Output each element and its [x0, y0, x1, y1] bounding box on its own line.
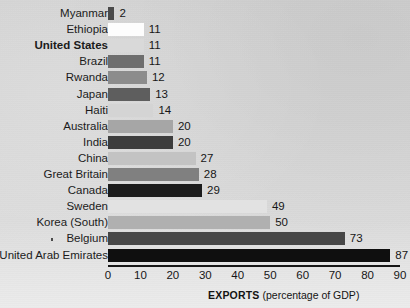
x-tick-label: 60	[296, 269, 309, 282]
chart-row: Ethiopia11	[0, 23, 410, 40]
x-axis-caption-rest: (percentage of GDP)	[260, 289, 360, 301]
bar-value-label: 14	[158, 104, 171, 117]
bar-value-label: 11	[149, 55, 161, 68]
x-tick-label: 80	[361, 269, 374, 282]
x-tick-label: 50	[264, 269, 277, 282]
x-axis-line	[108, 265, 400, 267]
bar-value-label: 11	[149, 23, 161, 36]
chart-row: Brazil11	[0, 55, 410, 72]
bar	[108, 104, 153, 117]
bar-value-label: 20	[178, 120, 191, 133]
x-axis-caption-strong: EXPORTS	[208, 289, 260, 301]
category-label: Australia	[0, 120, 108, 133]
bar-value-label: 2	[119, 7, 125, 20]
chart-row: Myanmar2	[0, 7, 410, 24]
x-axis-caption: EXPORTS (percentage of GDP)	[208, 289, 359, 302]
bar-value-label: 50	[275, 216, 288, 229]
category-label: Canada	[0, 184, 108, 197]
chart-row: Great Britain28	[0, 168, 410, 185]
bar	[108, 184, 202, 197]
category-label: Brazil	[0, 55, 108, 68]
bar	[108, 216, 270, 229]
bar-value-label: 13	[155, 88, 168, 101]
bar	[108, 249, 390, 262]
x-tick-label: 40	[231, 269, 244, 282]
bar-value-label: 12	[152, 71, 165, 84]
chart-row: Australia20	[0, 120, 410, 137]
category-label: Rwanda	[0, 71, 108, 84]
exports-bar-chart: Myanmar2Ethiopia11United States11Brazil1…	[0, 0, 410, 308]
bar	[108, 88, 150, 101]
category-label: Korea (South)	[0, 216, 108, 229]
bar-value-label: 49	[272, 200, 285, 213]
stray-tick-mark-icon	[51, 238, 53, 241]
bar	[108, 39, 144, 52]
category-label: Myanmar	[0, 7, 108, 20]
x-tick-label: 70	[329, 269, 342, 282]
category-label: India	[0, 136, 108, 149]
chart-row: India20	[0, 136, 410, 153]
chart-row: China27	[0, 152, 410, 169]
bar	[108, 168, 199, 181]
category-label: Japan	[0, 88, 108, 101]
x-tick-label: 90	[394, 269, 407, 282]
bar-value-label: 20	[178, 136, 191, 149]
bar-value-label: 27	[201, 152, 214, 165]
x-tick-label: 30	[199, 269, 212, 282]
category-label: Sweden	[0, 200, 108, 213]
chart-row: Belgium73	[0, 232, 410, 249]
category-label: United Arab Emirates	[0, 249, 108, 262]
bar	[108, 152, 196, 165]
bar	[108, 7, 114, 20]
bar-value-label: 11	[149, 39, 161, 52]
bar	[108, 136, 173, 149]
bar	[108, 55, 144, 68]
bar-value-label: 87	[395, 249, 408, 262]
category-label: China	[0, 152, 108, 165]
chart-row: Sweden49	[0, 200, 410, 217]
x-tick-label: 10	[134, 269, 147, 282]
category-label: Great Britain	[0, 168, 108, 181]
bar	[108, 71, 147, 84]
category-label: United States	[0, 39, 108, 52]
x-axis-tick-labels: 0102030405060708090	[0, 269, 410, 283]
chart-row: Japan13	[0, 88, 410, 105]
category-label: Haiti	[0, 104, 108, 117]
bar-value-label: 29	[207, 184, 220, 197]
chart-row: Haiti14	[0, 104, 410, 121]
chart-row: Korea (South)50	[0, 216, 410, 233]
x-tick-label: 0	[105, 269, 111, 282]
bar	[108, 232, 345, 245]
bar-value-label: 73	[350, 232, 363, 245]
chart-row: Canada29	[0, 184, 410, 201]
chart-row: Rwanda12	[0, 71, 410, 88]
bar	[108, 23, 144, 36]
x-tick-label: 20	[166, 269, 179, 282]
chart-row: United States11	[0, 39, 410, 56]
category-label: Belgium	[0, 232, 108, 245]
bar-value-label: 28	[204, 168, 217, 181]
bar	[108, 120, 173, 133]
bar	[108, 200, 267, 213]
chart-row: United Arab Emirates87	[0, 249, 410, 266]
category-label: Ethiopia	[0, 23, 108, 36]
